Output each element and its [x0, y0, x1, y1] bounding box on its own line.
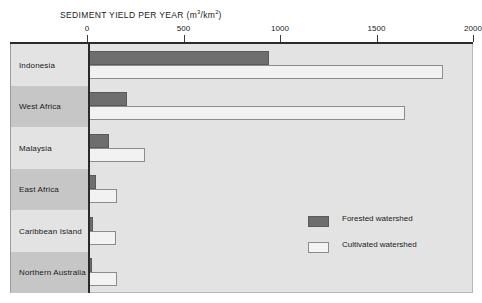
x-tick-mark: [87, 35, 88, 42]
y-axis-baseline: [88, 44, 90, 293]
legend-item: Forested watershed: [308, 214, 458, 232]
x-tick-label: 500: [177, 24, 190, 33]
legend-label-cultivated: Cultivated watershed: [342, 240, 417, 249]
x-tick-label: 0: [85, 24, 89, 33]
bar-cultivated-east-africa: [88, 189, 117, 203]
sediment-yield-chart: SEDIMENT YIELD PER YEAR (m3/km2) 0500100…: [0, 0, 482, 303]
category-label-indonesia: Indonesia: [19, 60, 55, 69]
category-label-caribbean-island: Caribbean Island: [19, 226, 82, 235]
bar-cultivated-west-africa: [88, 106, 405, 120]
chart-title: SEDIMENT YIELD PER YEAR (m3/km2): [60, 9, 222, 20]
category-row: West Africa: [11, 86, 474, 128]
category-row: East Africa: [11, 169, 474, 211]
category-row: Malaysia: [11, 127, 474, 169]
x-tick-mark: [184, 35, 185, 42]
bar-cultivated-northern-australia: [88, 272, 117, 286]
chart-title-end: ): [219, 10, 222, 20]
legend-label-forested: Forested watershed: [342, 214, 413, 223]
x-tick-label: 1500: [368, 24, 386, 33]
bar-cultivated-indonesia: [88, 65, 443, 79]
category-label-northern-australia: Northern Australia: [19, 268, 86, 277]
x-axis: 0500100015002000: [0, 24, 482, 44]
x-tick-label: 2000: [464, 24, 482, 33]
x-tick-mark: [377, 35, 378, 42]
category-label-west-africa: West Africa: [19, 102, 61, 111]
bar-cultivated-caribbean-island: [88, 231, 116, 245]
category-label-malaysia: Malaysia: [19, 143, 52, 152]
plot-area: IndonesiaWest AfricaMalaysiaEast AfricaC…: [10, 44, 473, 293]
bar-cultivated-malaysia: [88, 148, 145, 162]
x-tick-mark: [473, 35, 474, 42]
chart-title-mid: /km: [200, 10, 215, 20]
category-row: Indonesia: [11, 44, 474, 86]
bar-forested-west-africa: [88, 92, 127, 106]
legend-swatch-forested: [308, 216, 329, 227]
x-tick-mark: [280, 35, 281, 42]
bar-forested-indonesia: [88, 51, 269, 65]
chart-title-main: SEDIMENT YIELD PER YEAR (m: [60, 10, 197, 20]
legend-swatch-cultivated: [308, 242, 329, 253]
x-tick-label: 1000: [271, 24, 289, 33]
legend: Forested watershedCultivated watershed: [308, 214, 458, 266]
bar-forested-malaysia: [88, 134, 109, 148]
legend-item: Cultivated watershed: [308, 240, 458, 258]
category-label-east-africa: East Africa: [19, 185, 59, 194]
